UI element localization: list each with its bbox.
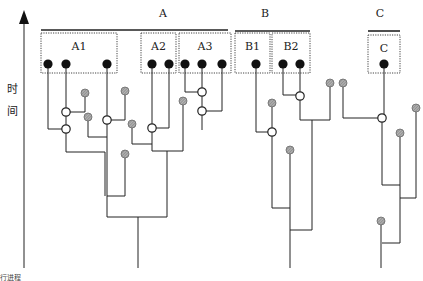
unsampled-lineage-dot — [268, 99, 276, 107]
coalescent-node-circle — [62, 108, 70, 116]
tree-edge — [185, 64, 202, 92]
tree-edge — [152, 64, 183, 151]
tree-edge — [272, 103, 290, 208]
unsampled-lineages — [81, 79, 420, 225]
tree-edge — [66, 64, 105, 196]
time-axis-label-char-2: 间 — [7, 105, 18, 118]
sampled-lineage-dot — [278, 59, 287, 68]
unsampled-lineage-dot — [286, 146, 294, 154]
sampled-lineage-dot — [197, 59, 206, 68]
tree-edge — [300, 64, 330, 120]
sampled-lineage-dot — [164, 59, 173, 68]
sampled-lineage-dot — [217, 59, 226, 68]
unsampled-lineage-dot — [128, 120, 136, 128]
subgroup-label: B1 — [245, 40, 260, 53]
sampled-lineage-dot — [379, 59, 388, 68]
coalescent-node-circle — [198, 88, 206, 96]
tree-edge — [256, 64, 272, 132]
group-label-c: C — [376, 7, 384, 20]
subgroup-box — [235, 33, 270, 73]
unsampled-lineage-dot — [121, 87, 129, 95]
footer-caption: 行进程 — [0, 273, 21, 281]
tree-edge — [290, 120, 312, 230]
coalescent-node-circle — [378, 114, 386, 122]
group-label-a: A — [158, 7, 168, 20]
time-axis-arrow-icon — [19, 10, 29, 24]
coalescent-node-circle — [148, 124, 156, 132]
unsampled-lineage-dot — [339, 79, 347, 87]
subgroup-b1: B1 — [235, 33, 270, 73]
unsampled-lineage-dot — [179, 97, 187, 105]
unsampled-lineage-dot — [377, 217, 385, 225]
unsampled-lineage-dot — [396, 129, 404, 137]
tree-edge — [107, 91, 125, 120]
subgroup-b2: B2 — [272, 33, 310, 73]
coalescent-node-circle — [62, 125, 70, 133]
time-axis-label-char-1: 时 — [7, 83, 18, 96]
sampled-lineage-dot — [43, 59, 52, 68]
coalescent-node-circle — [296, 92, 304, 100]
sampled-lineage-dot — [180, 59, 189, 68]
unsampled-lineage-dot — [326, 79, 334, 87]
subgroup-label: A1 — [71, 40, 87, 53]
unsampled-lineage-dot — [412, 104, 420, 112]
tree-edge — [382, 133, 400, 243]
sampled-lineage-dot — [251, 59, 260, 68]
coalescent-node-circle — [198, 107, 206, 115]
sampled-lineage-dot — [102, 59, 111, 68]
tree-edge — [283, 64, 300, 95]
tree-edges — [48, 64, 416, 268]
tree-edge — [382, 118, 400, 185]
subgroup-label: A3 — [197, 40, 213, 53]
tree-edge — [107, 154, 125, 196]
lineage-coalescent-diagram: 时 间 行进程 ABC A1A2A3B1B2C — [0, 0, 423, 281]
unsampled-lineage-dot — [121, 150, 129, 158]
time-axis: 时 间 行进程 — [0, 10, 29, 281]
tree-edge — [152, 64, 169, 128]
tree-edge — [107, 64, 167, 217]
unsampled-lineage-dot — [84, 113, 92, 121]
coalescent-node-circle — [268, 128, 276, 136]
subgroup-label: C — [380, 42, 388, 55]
group-headers: ABC — [41, 7, 400, 31]
subgroup-label: A2 — [150, 40, 166, 53]
tree-edge — [48, 64, 66, 129]
unsampled-lineage-dot — [81, 89, 89, 97]
sampled-lineages — [43, 59, 388, 68]
sampled-lineage-dot — [61, 59, 70, 68]
sampled-lineage-dot — [295, 59, 304, 68]
tree-edge — [202, 64, 222, 111]
subgroup-box — [272, 33, 310, 73]
coalescent-nodes — [62, 88, 386, 136]
group-label-b: B — [261, 7, 269, 20]
coalescent-node-circle — [103, 116, 111, 124]
subgroup-label: B2 — [283, 40, 298, 53]
tree-edge — [400, 108, 416, 198]
tree-edge — [343, 83, 382, 118]
sampled-lineage-dot — [147, 59, 156, 68]
